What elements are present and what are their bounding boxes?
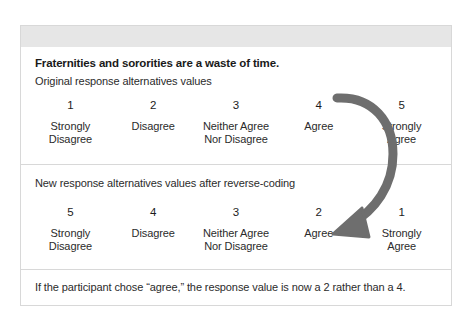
scale-label: Agree bbox=[277, 120, 360, 133]
footer-note: If the participant chose “agree,” the re… bbox=[35, 281, 406, 293]
panel-original-values: Fraternities and sororities are a waste … bbox=[21, 48, 451, 164]
scale-column: 2 Disagree bbox=[112, 98, 195, 147]
scale-value: 2 bbox=[112, 98, 195, 112]
figure-title: Fraternities and sororities are a waste … bbox=[35, 57, 279, 69]
scale-column: 3 Neither Agree Nor Disagree bbox=[195, 98, 278, 147]
scale-value: 5 bbox=[360, 98, 443, 112]
scale-column: 1 Strongly Agree bbox=[360, 205, 443, 254]
scale-label: Neither Agree Nor Disagree bbox=[195, 120, 278, 147]
scale-label: Strongly Agree bbox=[360, 227, 443, 254]
scale-value: 3 bbox=[195, 205, 278, 219]
scale-value: 5 bbox=[29, 205, 112, 219]
scale-label: Strongly Agree bbox=[360, 120, 443, 147]
scale-label: Agree bbox=[277, 227, 360, 240]
scale-column: 5 Strongly Agree bbox=[360, 98, 443, 147]
recoded-heading: New response alternatives values after r… bbox=[35, 177, 295, 189]
scale-column: 5 Strongly Disagree bbox=[29, 205, 112, 254]
original-scale-row: 1 Strongly Disagree 2 Disagree 3 Neither… bbox=[29, 98, 443, 147]
scale-label: Neither Agree Nor Disagree bbox=[195, 227, 278, 254]
scale-column: 4 Agree bbox=[277, 98, 360, 147]
card-header-band bbox=[21, 26, 451, 48]
scale-value: 4 bbox=[277, 98, 360, 112]
scale-column: 2 Agree bbox=[277, 205, 360, 254]
scale-value: 1 bbox=[29, 98, 112, 112]
scale-column: 4 Disagree bbox=[112, 205, 195, 254]
scale-label: Strongly Disagree bbox=[29, 120, 112, 147]
scale-value: 4 bbox=[112, 205, 195, 219]
scale-column: 3 Neither Agree Nor Disagree bbox=[195, 205, 278, 254]
panel-note: If the participant chose “agree,” the re… bbox=[21, 269, 451, 306]
original-heading: Original response alternatives values bbox=[35, 75, 212, 87]
reverse-coding-card: Fraternities and sororities are a waste … bbox=[20, 25, 452, 306]
panel-recoded-values: New response alternatives values after r… bbox=[21, 164, 451, 269]
scale-column: 1 Strongly Disagree bbox=[29, 98, 112, 147]
figure-root: Fraternities and sororities are a waste … bbox=[0, 0, 470, 331]
scale-value: 1 bbox=[360, 205, 443, 219]
scale-label: Disagree bbox=[112, 227, 195, 240]
recoded-scale-row: 5 Strongly Disagree 4 Disagree 3 Neither… bbox=[29, 205, 443, 254]
scale-label: Disagree bbox=[112, 120, 195, 133]
scale-value: 2 bbox=[277, 205, 360, 219]
scale-value: 3 bbox=[195, 98, 278, 112]
scale-label: Strongly Disagree bbox=[29, 227, 112, 254]
